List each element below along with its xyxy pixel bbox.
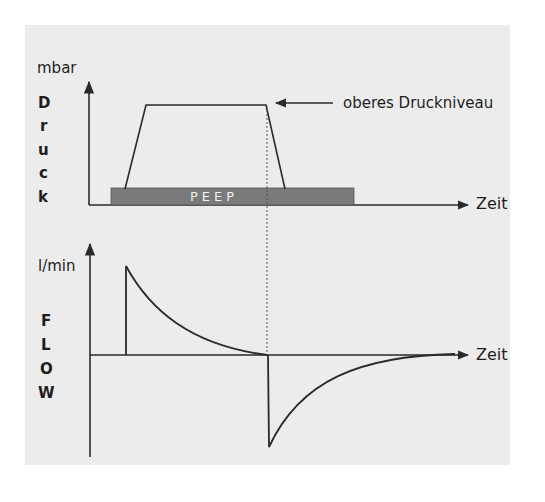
ventilation-diagram: PEEP oberes Druckniveau mbar D r u c k Z… [0,0,545,502]
pressure-vertical-label-0: D [38,94,50,112]
pressure-unit-label: mbar [37,59,77,77]
flow-x-axis-label: Zeit [476,345,508,364]
pressure-vertical-label-1: r [40,117,48,135]
flow-panel: l/min F L O W Zeit [38,244,508,457]
flow-vertical-label-3: W [38,384,55,402]
flow-vertical-label-0: F [41,312,51,330]
annotation-upper-pressure: oberes Druckniveau [343,94,493,112]
pressure-x-axis-label: Zeit [476,194,508,213]
pressure-vertical-label-3: c [39,164,48,182]
flow-vertical-label-2: O [40,360,53,378]
expiratory-flow-curve [268,354,455,447]
pressure-panel: PEEP oberes Druckniveau mbar D r u c k Z… [37,59,508,213]
pressure-vertical-label-4: k [38,188,49,206]
flow-vertical-label-1: L [41,336,51,354]
inspiratory-flow-curve [126,266,267,355]
flow-unit-label: l/min [38,257,76,275]
peep-label: PEEP [190,189,238,204]
pressure-vertical-label-2: u [38,141,49,159]
pressure-curve [125,105,285,189]
